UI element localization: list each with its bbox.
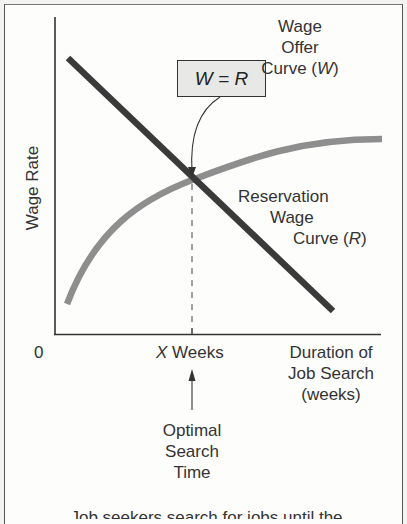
reservation-label-line: Curve (R) <box>238 228 358 249</box>
wage-offer-label: Wage Offer Curve (W) <box>245 16 355 79</box>
x-axis-label-line: Duration of <box>277 342 385 363</box>
x-axis-label-line: (weeks) <box>277 384 385 405</box>
optimal-label-line: Time <box>152 462 232 483</box>
optimal-search-time-label: Optimal Search Time <box>152 420 232 483</box>
reservation-label-line: Wage <box>238 207 358 228</box>
optimal-label-line: Optimal <box>152 420 232 441</box>
x-axis-label: Duration of Job Search (weeks) <box>277 342 385 405</box>
wage-offer-label-line: Curve (W) <box>245 58 355 79</box>
y-axis-label: Wage Rate <box>23 146 43 230</box>
wage-offer-label-line: Wage <box>245 16 355 37</box>
reservation-wage-label: Reservation Wage Curve (R) <box>238 186 358 249</box>
x-axis-label-line: Job Search <box>277 363 385 384</box>
box-arrow <box>192 97 220 172</box>
origin-label: 0 <box>34 342 43 363</box>
wage-offer-label-line: Offer <box>245 37 355 58</box>
reservation-label-line: Reservation <box>238 186 358 207</box>
x-tick-label: X Weeks <box>156 342 224 363</box>
caption-text: Job seekers search for jobs until the <box>0 508 407 519</box>
optimal-arrowhead-icon <box>189 369 196 381</box>
optimal-label-line: Search <box>152 441 232 462</box>
caption-clipped: Job seekers search for jobs until the <box>0 508 407 519</box>
